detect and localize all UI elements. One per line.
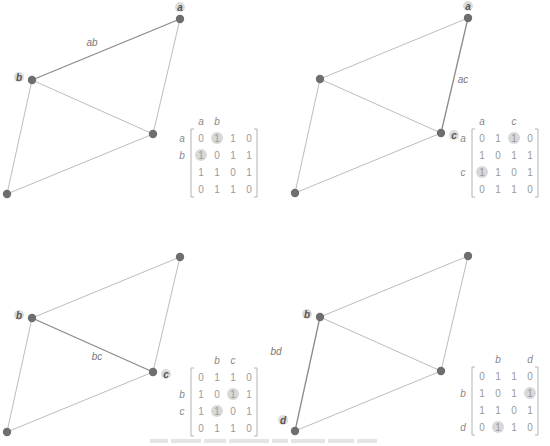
node-label-d: d xyxy=(280,415,287,426)
matrix-cell: 0 xyxy=(479,133,485,144)
node-label-b: b xyxy=(16,72,22,83)
matrix-cell: 1 xyxy=(230,150,236,161)
panel-ac: acac0110101111010110acac xyxy=(291,1,538,198)
matrix-cell: 1 xyxy=(527,388,533,399)
edge-bd xyxy=(295,79,320,193)
edge-label: ab xyxy=(86,37,98,48)
node-a xyxy=(464,14,472,22)
node-d xyxy=(3,190,11,198)
edge-cd xyxy=(295,371,441,431)
column-header: b xyxy=(214,116,220,127)
matrix-cell: 0 xyxy=(230,406,236,417)
matrix-cell: 1 xyxy=(230,389,236,400)
node-c xyxy=(437,367,445,375)
left-bracket xyxy=(472,367,475,435)
left-bracket xyxy=(191,129,194,197)
edge-label: ac xyxy=(458,74,469,85)
matrix-cell: 1 xyxy=(479,388,485,399)
matrix-cell: 1 xyxy=(246,167,252,178)
matrix-cell: 1 xyxy=(214,406,220,417)
matrix-cell: 1 xyxy=(511,388,517,399)
matrix-cell: 1 xyxy=(214,184,220,195)
edge-bd xyxy=(295,317,320,431)
matrix-cell: 1 xyxy=(214,167,220,178)
column-header: a xyxy=(479,116,485,127)
edge-cd xyxy=(295,133,441,193)
node-label-c: c xyxy=(163,369,169,380)
matrix-cell: 0 xyxy=(246,184,252,195)
row-header: a xyxy=(460,133,466,144)
adjacency-matrix: 0110101111010110bdbd xyxy=(460,354,538,435)
node-b xyxy=(316,75,324,83)
matrix-cell: 1 xyxy=(495,371,501,382)
column-header: b xyxy=(214,355,220,366)
node-d xyxy=(291,189,299,197)
edge-label: bd xyxy=(270,346,282,357)
node-label-a: a xyxy=(465,1,471,12)
matrix-cell: 1 xyxy=(495,422,501,433)
matrix-cell: 0 xyxy=(527,133,533,144)
edge-cd xyxy=(7,134,153,194)
adjacency-matrix: 0110101111010110abab xyxy=(179,116,257,197)
matrix-cell: 0 xyxy=(246,372,252,383)
matrix-cell: 1 xyxy=(246,406,252,417)
row-header: a xyxy=(179,133,185,144)
edge-ac xyxy=(441,256,468,371)
graph-adjacency-figure: abab0110101111010110ababacac011010111101… xyxy=(0,0,550,446)
matrix-cell: 0 xyxy=(198,372,204,383)
edge-cd xyxy=(7,372,153,432)
matrix-cell: 0 xyxy=(214,150,220,161)
row-header: b xyxy=(179,150,185,161)
matrix-cell: 1 xyxy=(246,150,252,161)
edge-bc xyxy=(32,80,153,134)
matrix-cell: 1 xyxy=(246,389,252,400)
matrix-cell: 1 xyxy=(479,150,485,161)
matrix-cell: 1 xyxy=(527,167,533,178)
edge-ab xyxy=(320,18,468,79)
node-c xyxy=(149,368,157,376)
matrix-cell: 1 xyxy=(495,405,501,416)
node-label-c: c xyxy=(451,130,457,141)
edge-ab xyxy=(32,257,180,318)
matrix-cell: 0 xyxy=(214,389,220,400)
edge-bd xyxy=(7,318,32,432)
matrix-cell: 0 xyxy=(479,371,485,382)
matrix-cell: 1 xyxy=(198,150,204,161)
node-d xyxy=(3,428,11,436)
figure-caption xyxy=(150,431,410,439)
node-label-b: b xyxy=(16,310,22,321)
edge-bc xyxy=(320,317,441,371)
matrix-cell: 1 xyxy=(479,167,485,178)
matrix-cell: 1 xyxy=(511,150,517,161)
column-header: c xyxy=(512,116,517,127)
row-header: c xyxy=(180,406,185,417)
matrix-cell: 1 xyxy=(230,133,236,144)
panel-bc: bcbc0110101111010110bcbc xyxy=(3,253,257,436)
column-header: c xyxy=(231,355,236,366)
node-b xyxy=(316,313,324,321)
matrix-cell: 1 xyxy=(214,372,220,383)
matrix-cell: 0 xyxy=(495,150,501,161)
node-label-a: a xyxy=(177,2,183,13)
matrix-cell: 0 xyxy=(511,405,517,416)
node-c xyxy=(149,130,157,138)
matrix-cell: 1 xyxy=(527,405,533,416)
edge-label: bc xyxy=(92,351,103,362)
matrix-cell: 0 xyxy=(246,133,252,144)
column-header: a xyxy=(198,116,204,127)
matrix-cell: 1 xyxy=(230,184,236,195)
node-a xyxy=(176,253,184,261)
matrix-cell: 0 xyxy=(198,184,204,195)
edge-bc xyxy=(320,79,441,133)
matrix-cell: 1 xyxy=(214,133,220,144)
edge-bd xyxy=(7,80,32,194)
edge-ac xyxy=(153,257,180,372)
matrix-cell: 1 xyxy=(495,167,501,178)
matrix-cell: 0 xyxy=(527,184,533,195)
right-bracket xyxy=(254,368,257,436)
node-label-b: b xyxy=(304,309,310,320)
edge-bc xyxy=(32,318,153,372)
matrix-cell: 1 xyxy=(511,371,517,382)
matrix-cell: 1 xyxy=(230,372,236,383)
matrix-cell: 0 xyxy=(527,422,533,433)
